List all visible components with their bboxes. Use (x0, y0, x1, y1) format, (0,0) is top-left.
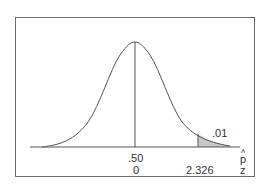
hat-symbol: ^ (241, 148, 245, 159)
normal-curve (42, 42, 230, 147)
tail-area-label: .01 (212, 127, 227, 139)
z-axis-label: z (240, 164, 246, 176)
center-phat-label: .50 (128, 152, 143, 164)
critical-z-label: 2.326 (186, 164, 214, 176)
center-z-label: 0 (133, 164, 139, 176)
